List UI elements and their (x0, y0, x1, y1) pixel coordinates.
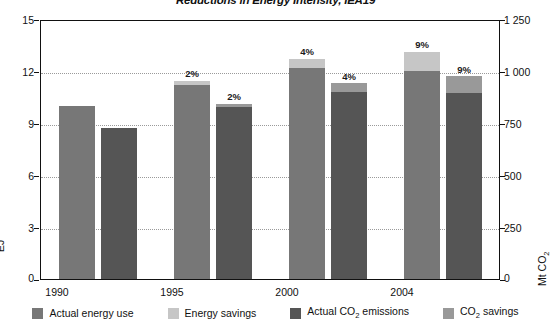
legend-swatch-icon (443, 308, 454, 319)
legend-item-energy-savings[interactable]: Energy savings (168, 307, 257, 319)
y-axis-right-tick-750: 750 (504, 119, 550, 130)
bar-energy-2000[interactable]: 4% (289, 59, 325, 279)
x-axis-label-2000: 2000 (252, 286, 322, 298)
legend-label: CO2 savings (460, 305, 518, 320)
chart-title: Reductions in Energy Intensity, IEA19 (0, 0, 551, 6)
bar-seg-co2-savings-2000 (331, 83, 367, 92)
y-axis-left-tick-3: 3 (0, 223, 34, 234)
bar-seg-actual-energy-2004 (404, 71, 440, 279)
bar-group-1990 (41, 21, 156, 279)
legend-swatch-icon (168, 308, 179, 319)
legend-label: Actual energy use (49, 307, 133, 319)
bar-group-2004: 9% 9% (386, 21, 501, 279)
y-axis-left-tickmark (34, 280, 39, 281)
bar-energy-1995[interactable]: 2% (174, 81, 210, 279)
y-axis-left-tick-15: 15 (0, 15, 34, 26)
y-axis-right-tick-1000: 1 000 (504, 67, 550, 78)
bar-seg-actual-energy-1990 (59, 106, 95, 279)
y-axis-right-tick-250: 250 (504, 223, 550, 234)
legend-label: Energy savings (185, 307, 257, 319)
y-axis-left-tickmark (34, 228, 39, 229)
bar-energy-1990[interactable] (59, 106, 95, 279)
x-axis-label-1990: 1990 (22, 286, 92, 298)
bar-co2-1990[interactable] (101, 128, 137, 279)
y-axis-left-tickmark (34, 20, 39, 21)
x-axis-label-2004: 2004 (367, 286, 437, 298)
y-axis-right-title: Mt CO2 (536, 251, 551, 286)
y-axis-right-tick-1250: 1 250 (504, 15, 550, 26)
bar-seg-energy-savings-2004 (404, 52, 440, 71)
bar-seg-co2-savings-2004 (446, 76, 482, 93)
bar-co2-2004[interactable]: 9% (446, 76, 482, 279)
y-axis-right-tick-500: 500 (504, 171, 550, 182)
y-axis-left-tickmark (34, 124, 39, 125)
x-axis-label-1995: 1995 (137, 286, 207, 298)
y-axis-left-tickmark (34, 176, 39, 177)
y-axis-right-tickmark (500, 280, 505, 281)
bar-seg-actual-energy-1995 (174, 85, 210, 279)
plot-area: 2% 2% 4% 4% (40, 20, 500, 280)
bar-seg-actual-energy-2000 (289, 68, 325, 279)
pct-label-energy-1995: 2% (174, 69, 210, 79)
legend-item-co2-savings[interactable]: CO2 savings (443, 305, 518, 320)
pct-label-co2-1995: 2% (216, 92, 252, 102)
y-axis-left-tickmark (34, 72, 39, 73)
legend-label: Actual CO2 emissions (307, 305, 409, 320)
legend-item-actual-energy-use[interactable]: Actual energy use (32, 307, 133, 319)
bar-seg-actual-co2-2004 (446, 93, 482, 279)
y-axis-left-tick-12: 12 (0, 67, 34, 78)
bar-seg-actual-co2-2000 (331, 92, 367, 279)
bar-seg-actual-co2-1990 (101, 128, 137, 279)
bar-energy-2004[interactable]: 9% (404, 52, 440, 279)
y-axis-left-tick-0: 0 (0, 273, 34, 284)
pct-label-energy-2004: 9% (404, 40, 440, 50)
y-axis-left-tick-9: 9 (0, 119, 34, 130)
y-axis-left-tick-6: 6 (0, 171, 34, 182)
legend-swatch-icon (290, 308, 301, 319)
pct-label-co2-2004: 9% (446, 65, 482, 75)
bar-co2-2000[interactable]: 4% (331, 83, 367, 279)
legend-swatch-icon (32, 308, 43, 319)
bar-group-2000: 4% 4% (271, 21, 386, 279)
bar-group-1995: 2% 2% (156, 21, 271, 279)
bar-seg-actual-co2-1995 (216, 107, 252, 279)
legend-item-actual-co2-emissions[interactable]: Actual CO2 emissions (290, 305, 409, 320)
bar-seg-energy-savings-2000 (289, 59, 325, 68)
chart-legend: Actual energy use Energy savings Actual … (0, 303, 551, 323)
pct-label-co2-2000: 4% (331, 72, 367, 82)
y-axis-left-title: EJ (0, 240, 6, 252)
pct-label-energy-2000: 4% (289, 47, 325, 57)
bar-co2-1995[interactable]: 2% (216, 104, 252, 279)
plot-inner: 2% 2% 4% 4% (41, 21, 499, 279)
